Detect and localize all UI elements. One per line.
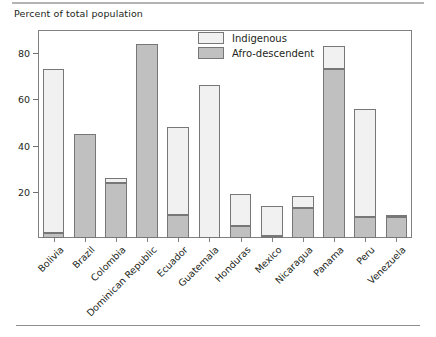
segment-afro-descendent <box>167 215 189 238</box>
segment-afro-descendent <box>74 134 96 238</box>
chart-legend: Indigenous Afro-descendent <box>198 32 314 59</box>
x-tick-label: Bolivia <box>35 244 65 274</box>
bar-peru <box>354 109 376 238</box>
segment-afro-descendent <box>323 69 345 238</box>
segment-indigenous <box>386 215 408 217</box>
segment-afro-descendent <box>105 183 127 238</box>
bar-bolivia <box>43 69 65 238</box>
bar-panama <box>323 46 345 238</box>
legend-label-indigenous: Indigenous <box>232 33 287 44</box>
figure-container: Percent of total population 20406080 Bol… <box>0 0 436 337</box>
bar-venezuela <box>386 215 408 238</box>
segment-indigenous <box>261 206 283 236</box>
segment-indigenous <box>292 196 314 208</box>
indigenous-swatch-icon <box>198 32 224 44</box>
legend-item-indigenous: Indigenous <box>198 32 314 44</box>
bar-ecuador <box>167 127 189 238</box>
plot-area: 20406080 <box>38 30 412 238</box>
legend-label-afro-descendent: Afro-descendent <box>232 48 314 59</box>
bar-brazil <box>74 134 96 238</box>
divider-bottom <box>16 325 420 326</box>
y-tick-label: 80 <box>18 48 30 59</box>
segment-indigenous <box>230 194 252 226</box>
bar-honduras <box>230 194 252 238</box>
legend-item-afro-descendent: Afro-descendent <box>198 47 314 59</box>
divider-top <box>12 2 424 4</box>
bar-guatemala <box>199 85 221 238</box>
y-tick-label: 60 <box>18 94 30 105</box>
segment-afro-descendent <box>230 226 252 238</box>
x-tick-label: Panama <box>311 244 346 279</box>
segment-indigenous <box>43 69 65 233</box>
bar-colombia <box>105 178 127 238</box>
y-tick-label: 40 <box>18 140 30 151</box>
segment-afro-descendent <box>292 208 314 238</box>
segment-indigenous <box>354 109 376 218</box>
y-tick-label: 20 <box>18 186 30 197</box>
segment-afro-descendent <box>386 217 408 238</box>
segment-indigenous <box>105 178 127 183</box>
segment-indigenous <box>167 127 189 215</box>
axis-title: Percent of total population <box>14 8 143 19</box>
x-tick-label: Peru <box>354 244 377 267</box>
afro-descendent-swatch-icon <box>198 47 224 59</box>
bar-mexico <box>261 206 283 238</box>
bar-dominican-republic <box>136 44 158 238</box>
x-tick-label: Brazil <box>70 244 97 271</box>
segment-afro-descendent <box>354 217 376 238</box>
segment-afro-descendent <box>136 44 158 238</box>
bar-series-group <box>38 30 412 238</box>
segment-indigenous <box>199 85 221 238</box>
x-axis-labels: BoliviaBrazilColombiaDominican RepublicE… <box>38 238 412 333</box>
bar-nicaragua <box>292 196 314 238</box>
segment-indigenous <box>323 46 345 69</box>
